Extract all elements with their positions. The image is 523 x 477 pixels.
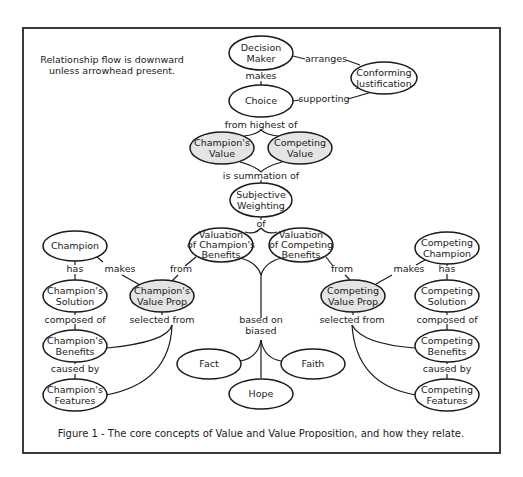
- node-competing-benefits: Competing Benefits: [415, 330, 479, 362]
- node-valuation-champions-benefits: Valuation of Champion's Benefits: [187, 228, 255, 262]
- label-of: of: [256, 218, 266, 229]
- node-competing-solution: Competing Solution: [415, 280, 479, 312]
- node-competing-champion: Competing Champion: [415, 232, 479, 264]
- label-competing-makes: makes: [393, 263, 424, 274]
- label-from-left: from: [170, 263, 192, 274]
- node-subjective-weighting-line1: Subjective: [236, 189, 286, 200]
- node-champions-benefits-line1: Champion's: [47, 335, 103, 346]
- node-competing-features: Competing Features: [415, 379, 479, 411]
- node-competing-value-line2: Value: [287, 148, 313, 159]
- label-caused-by-right: caused by: [423, 363, 472, 374]
- label-selected-from-left: selected from: [129, 314, 194, 325]
- node-champions-value-prop-line2: Value Prop: [137, 296, 187, 307]
- node-champions-solution-line1: Champion's: [47, 285, 103, 296]
- value-proposition-concept-map: Relationship flow is downward unless arr…: [0, 0, 523, 477]
- node-faith-line1: Faith: [302, 358, 325, 369]
- node-competing-value-line1: Competing: [274, 137, 326, 148]
- node-champions-value-prop: Champion's Value Prop: [130, 280, 194, 312]
- node-decision-maker-line2: Maker: [247, 53, 276, 64]
- node-champions-value-line1: Champion's: [194, 137, 250, 148]
- node-champions-value-prop-line1: Champion's: [134, 285, 190, 296]
- label-makes-choice: makes: [245, 70, 276, 81]
- node-champion: Champion: [43, 231, 107, 261]
- node-decision-maker-line1: Decision: [241, 42, 281, 53]
- node-competing-solution-line2: Solution: [428, 296, 467, 307]
- label-supporting: supporting: [298, 93, 349, 104]
- node-champions-features-line1: Champion's: [47, 384, 103, 395]
- node-choice-line1: Choice: [245, 95, 277, 106]
- node-conforming-justification: Conforming Justification: [351, 62, 417, 94]
- node-competing-features-line1: Competing: [421, 384, 473, 395]
- label-caused-by-left: caused by: [51, 363, 100, 374]
- node-conforming-justification-line2: Justification: [355, 78, 411, 89]
- node-competing-value-prop-line2: Value Prop: [328, 296, 378, 307]
- flow-note-line1: Relationship flow is downward: [40, 54, 184, 65]
- node-subjective-weighting-line2: Weighting: [237, 200, 285, 211]
- node-competing-value: Competing Value: [268, 132, 332, 164]
- node-competing-benefits-line1: Competing: [421, 335, 473, 346]
- node-competing-champion-line1: Competing: [421, 237, 473, 248]
- node-faith: Faith: [281, 349, 345, 379]
- label-champion-has: has: [67, 263, 84, 274]
- label-arranges: arranges: [305, 53, 347, 64]
- node-competing-champion-line2: Champion: [423, 248, 471, 259]
- node-fact: Fact: [177, 349, 241, 379]
- node-decision-maker: Decision Maker: [229, 36, 293, 70]
- node-competing-value-prop-line1: Competing: [327, 285, 379, 296]
- label-is-summation-of: is summation of: [223, 170, 300, 181]
- node-hope: Hope: [229, 379, 293, 409]
- label-from-right: from: [331, 263, 353, 274]
- node-champions-value: Champion's Value: [190, 132, 254, 164]
- label-champion-makes: makes: [104, 263, 135, 274]
- node-competing-features-line2: Features: [427, 395, 468, 406]
- node-competing-solution-line1: Competing: [421, 285, 473, 296]
- node-champions-features: Champion's Features: [43, 379, 107, 411]
- flow-note-line2: unless arrowhead present.: [49, 65, 175, 76]
- node-valuation-competing-benefits: Valuation of Competing Benefits: [269, 228, 333, 262]
- node-champions-value-line2: Value: [209, 148, 235, 159]
- node-champions-solution: Champion's Solution: [43, 280, 107, 312]
- node-hope-line1: Hope: [249, 388, 274, 399]
- node-competing-value-prop: Competing Value Prop: [321, 280, 385, 312]
- node-valuation-competing-benefits-line3: Benefits: [282, 249, 321, 260]
- node-champions-features-line2: Features: [55, 395, 96, 406]
- node-competing-benefits-line2: Benefits: [428, 346, 467, 357]
- label-biased: biased: [245, 325, 276, 336]
- label-composed-of-right: composed of: [416, 314, 478, 325]
- node-champions-benefits-line2: Benefits: [56, 346, 95, 357]
- label-composed-of-left: composed of: [44, 314, 106, 325]
- node-champions-benefits: Champion's Benefits: [43, 330, 107, 362]
- node-champions-solution-line2: Solution: [56, 296, 95, 307]
- figure-caption: Figure 1 - The core concepts of Value an…: [58, 428, 464, 439]
- node-choice: Choice: [229, 85, 293, 117]
- label-selected-from-right: selected from: [319, 314, 384, 325]
- node-conforming-justification-line1: Conforming: [356, 67, 411, 78]
- label-from-highest-of: from highest of: [225, 119, 298, 130]
- node-fact-line1: Fact: [199, 358, 219, 369]
- label-based-on: based on: [239, 314, 283, 325]
- node-valuation-champions-benefits-line3: Benefits: [202, 249, 241, 260]
- node-champion-line1: Champion: [51, 240, 99, 251]
- node-subjective-weighting: Subjective Weighting: [230, 183, 292, 217]
